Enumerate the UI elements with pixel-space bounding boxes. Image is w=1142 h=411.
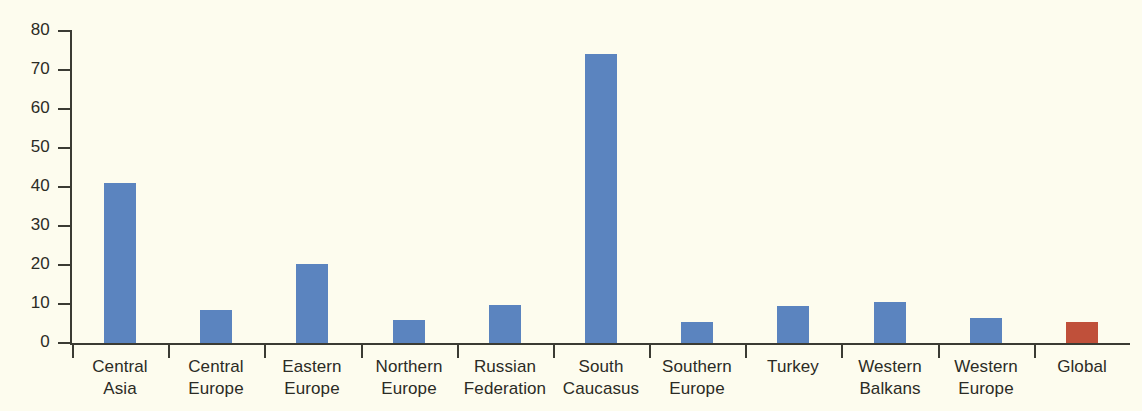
y-axis-tick-label: 70 [10, 59, 50, 79]
y-axis-tick-label: 10 [10, 293, 50, 313]
y-axis-tick-label: 30 [10, 215, 50, 235]
x-axis-label-line-1: Global [1057, 357, 1107, 376]
x-axis-label-line-1: Russian [474, 357, 536, 376]
x-axis-label-line-2: Europe [632, 378, 762, 400]
y-axis-tick [58, 264, 71, 266]
x-axis-label-line-1: Eastern [282, 357, 341, 376]
x-axis-line [70, 343, 1130, 345]
y-axis-tick-label: 50 [10, 137, 50, 157]
y-axis-tick [58, 303, 71, 305]
x-axis-label-global: Global [1017, 356, 1142, 378]
y-axis-tick [58, 186, 71, 188]
plot-area: 80706050403020100 CentralAsiaCentralEuro… [0, 0, 1142, 411]
x-axis-label-line-1: Central [188, 357, 244, 376]
bar-turkey [777, 306, 809, 343]
y-axis-tick [58, 69, 71, 71]
bar-eastern-europe [296, 264, 328, 343]
y-axis-tick-label: 0 [10, 332, 50, 352]
bar-central-europe [200, 310, 232, 343]
bar-northern-europe [393, 320, 425, 343]
x-axis-label-line-1: South [579, 357, 624, 376]
x-axis-label-line-1: Turkey [767, 357, 819, 376]
x-axis-label-line-1: Southern [662, 357, 732, 376]
x-axis-label-line-1: Western [858, 357, 922, 376]
y-axis-tick-label: 20 [10, 254, 50, 274]
x-axis-label-line-1: Western [954, 357, 1018, 376]
bar-central-asia [104, 183, 136, 343]
y-axis-tick-label: 60 [10, 98, 50, 118]
y-axis-tick [58, 147, 71, 149]
y-axis-tick [58, 225, 71, 227]
y-axis-tick-label: 80 [10, 20, 50, 40]
y-axis-tick [58, 342, 71, 344]
bar-western-europe [970, 318, 1002, 343]
y-axis-tick [58, 108, 71, 110]
bar-global [1066, 322, 1098, 343]
bar-south-caucasus [585, 54, 617, 343]
y-axis-tick [58, 30, 71, 32]
bar-russian-federation [489, 305, 521, 343]
x-axis-label-line-2: Europe [921, 378, 1051, 400]
bar-southern-europe [681, 322, 713, 343]
bar-chart: 80706050403020100 CentralAsiaCentralEuro… [0, 0, 1142, 411]
x-axis-label-line-1: Northern [376, 357, 443, 376]
y-axis-tick-label: 40 [10, 176, 50, 196]
bar-western-balkans [874, 302, 906, 343]
x-axis-label-line-1: Central [92, 357, 148, 376]
